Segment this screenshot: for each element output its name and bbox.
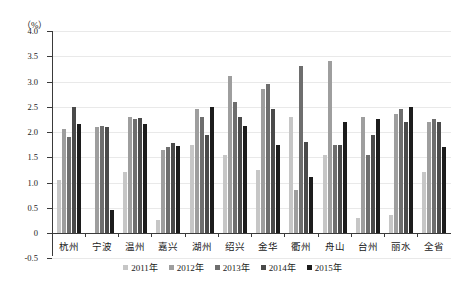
bar [100,126,104,233]
bar [77,124,81,233]
bar [409,107,413,233]
legend-label: 2012年 [177,261,204,274]
bar-group [85,31,118,233]
bar [427,122,431,233]
bar [190,145,194,233]
bar [143,124,147,233]
bar [356,218,360,233]
legend-item[interactable]: 2011年 [123,261,158,274]
legend-item[interactable]: 2014年 [261,261,296,274]
x-axis-label: 台州 [351,239,384,257]
x-axis-tick [52,233,85,237]
x-axis-label: 全省 [418,239,451,257]
bar [299,66,303,233]
x-axis-label: 丽水 [385,239,418,257]
bar [338,145,342,233]
y-axis-tick-label: 3.5 [0,51,46,61]
y-axis-tick-label: 0.5 [0,203,46,213]
bar [166,147,170,233]
x-axis-label: 嘉兴 [152,239,185,257]
bar [442,147,446,233]
x-axis-tick [152,233,185,237]
bar [138,118,142,233]
y-axis-tick-label: 2.5 [0,102,46,112]
y-axis-tick-label: 1.5 [0,152,46,162]
bar [205,135,209,233]
bar-group [285,31,318,233]
bar [266,84,270,233]
bar [176,146,180,233]
bar [228,76,232,233]
bar [437,122,441,233]
bar [110,210,114,233]
bar [328,61,332,233]
legend-swatch [169,265,174,270]
bar [343,122,347,233]
bar [404,122,408,233]
x-axis-tick [252,233,285,237]
x-axis-tick [385,233,418,237]
bar-group [351,31,384,233]
y-axis-tick-label: 4.0 [0,26,46,36]
x-axis-label: 舟山 [318,239,351,257]
bar-group [385,31,418,233]
bar [366,155,370,233]
bar [62,129,66,233]
bar [304,142,308,233]
bar [261,89,265,233]
x-axis-tick [351,233,384,237]
bar [156,220,160,233]
bar [133,119,137,233]
bar [333,145,337,233]
bar [432,119,436,233]
bar-groups [52,31,451,233]
y-axis-tick-label: 3.0 [0,77,46,87]
legend-label: 2011年 [131,261,158,274]
x-axis-labels: 杭州宁波温州嘉兴湖州绍兴金华衢州舟山台州丽水全省 [52,239,451,257]
bar [309,177,313,233]
x-axis-tick [218,233,251,237]
x-axis-label: 绍兴 [218,239,251,257]
bar [243,126,247,233]
x-axis-label: 金华 [252,239,285,257]
bar [323,155,327,233]
legend-swatch [123,265,128,270]
y-axis-tick-label: 1.0 [0,178,46,188]
bar [294,190,298,233]
bar [289,117,293,233]
legend-label: 2013年 [223,261,250,274]
legend-item[interactable]: 2013年 [215,261,250,274]
bar [233,102,237,233]
bar-group [52,31,85,233]
bar-group [119,31,152,233]
bar [128,117,132,233]
bar-group [318,31,351,233]
y-axis-tick [47,258,52,259]
bar-group [252,31,285,233]
legend-item[interactable]: 2015年 [307,261,342,274]
gridline [52,258,451,259]
legend-swatch [215,265,220,270]
bar [123,172,127,233]
x-axis-ticks [52,233,451,237]
x-axis-tick [418,233,451,237]
chart-legend: 2011年2012年2013年2014年2015年 [0,261,465,274]
x-axis-tick [285,233,318,237]
bar [361,117,365,233]
bar [105,127,109,233]
x-axis-label: 温州 [119,239,152,257]
bar [171,143,175,233]
bar [276,145,280,233]
y-axis-tick-label: 2.0 [0,127,46,137]
legend-item[interactable]: 2012年 [169,261,204,274]
bar [394,114,398,233]
legend-swatch [261,265,266,270]
x-axis-tick [318,233,351,237]
bar [256,170,260,233]
bar [223,155,227,233]
bar [422,172,426,233]
bar [57,180,61,233]
bar [72,107,76,233]
bar [200,117,204,233]
bar [371,135,375,233]
